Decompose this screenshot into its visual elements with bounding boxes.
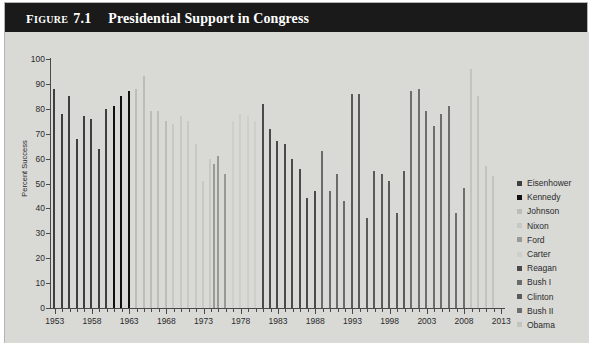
x-axis-tick-mark xyxy=(300,309,301,312)
legend-label: Eisenhower xyxy=(527,178,571,188)
legend-swatch-icon xyxy=(517,280,522,285)
legend-item[interactable]: Nixon xyxy=(517,219,587,233)
x-axis-tick-mark xyxy=(360,309,361,312)
legend-item[interactable]: Bush II xyxy=(517,304,587,318)
x-axis-tick-label: 1973 xyxy=(194,316,213,326)
figure-label: FIGURE xyxy=(26,12,68,26)
x-axis-tick-mark xyxy=(129,309,130,314)
chart-bar xyxy=(448,106,450,308)
x-axis-tick-mark xyxy=(472,309,473,312)
x-axis-tick-mark xyxy=(263,309,264,312)
x-axis-tick-mark xyxy=(166,309,167,314)
chart-bar xyxy=(306,198,308,308)
chart-bar xyxy=(128,91,130,308)
legend-swatch-icon xyxy=(517,322,522,327)
chart-bar xyxy=(61,114,63,308)
legend-swatch-icon xyxy=(517,209,522,214)
chart-bar xyxy=(165,121,167,308)
chart-bar xyxy=(336,174,338,308)
chart-bar xyxy=(83,116,85,308)
legend-item[interactable]: Bush I xyxy=(517,275,587,289)
chart-bar xyxy=(396,213,398,308)
legend-swatch-icon xyxy=(517,266,522,271)
y-axis-tick-label: 70 xyxy=(21,129,45,139)
chart-bar xyxy=(90,119,92,308)
x-axis-tick-mark xyxy=(501,309,502,314)
x-axis-tick-mark xyxy=(241,309,242,314)
chart-bar xyxy=(247,116,249,308)
chart-bar xyxy=(373,171,375,308)
x-axis-tick-label: 1958 xyxy=(82,316,101,326)
figure-label-initial: F xyxy=(26,12,34,26)
chart-bar xyxy=(202,181,204,308)
chart-bar xyxy=(224,174,226,308)
x-axis-tick-mark xyxy=(315,309,316,314)
legend-label: Johnson xyxy=(527,206,559,216)
chart-bar xyxy=(463,188,465,308)
chart-bar xyxy=(76,139,78,308)
chart-legend: EisenhowerKennedyJohnsonNixonFordCarterR… xyxy=(517,176,587,332)
chart-body: Percent Success 0102030405060708090100 1… xyxy=(5,32,589,343)
legend-label: Bush I xyxy=(527,277,551,287)
chart-bar xyxy=(388,181,390,308)
x-axis-tick-mark xyxy=(352,309,353,314)
x-axis-tick-mark xyxy=(285,309,286,312)
legend-item[interactable]: Clinton xyxy=(517,290,587,304)
x-axis-tick-mark xyxy=(159,309,160,312)
x-axis-tick-mark xyxy=(211,309,212,312)
chart-bar xyxy=(254,121,256,308)
x-axis-tick-mark xyxy=(457,309,458,312)
legend-item[interactable]: Obama xyxy=(517,318,587,332)
x-axis-tick-mark xyxy=(70,309,71,312)
x-axis-tick-label: 1968 xyxy=(157,316,176,326)
x-axis-tick-mark xyxy=(114,309,115,312)
x-axis-tick-mark xyxy=(293,309,294,312)
chart-bar xyxy=(358,94,360,308)
x-axis-tick-label: 2008 xyxy=(455,316,474,326)
legend-item[interactable]: Ford xyxy=(517,233,587,247)
x-axis-tick-mark xyxy=(494,309,495,312)
figure-title-band: FIGURE7.1Presidential Support in Congres… xyxy=(5,3,587,32)
chart-bar xyxy=(172,124,174,308)
x-axis-tick-mark xyxy=(151,309,152,312)
chart-bar xyxy=(351,94,353,308)
x-axis-tick-mark xyxy=(92,309,93,314)
x-axis-tick-mark xyxy=(189,309,190,312)
chart-bar xyxy=(187,121,189,308)
chart-bar xyxy=(262,104,264,308)
chart-bar xyxy=(157,111,159,308)
legend-item[interactable]: Kennedy xyxy=(517,190,587,204)
chart-bar xyxy=(485,166,487,308)
legend-item[interactable]: Eisenhower xyxy=(517,176,587,190)
x-axis-tick-mark xyxy=(144,309,145,312)
chart-bar xyxy=(321,151,323,308)
legend-item[interactable]: Carter xyxy=(517,247,587,261)
chart-bar xyxy=(276,141,278,308)
x-axis-tick-mark xyxy=(412,309,413,312)
legend-item[interactable]: Johnson xyxy=(517,204,587,218)
y-axis-tick-labels: 0102030405060708090100 xyxy=(17,32,45,343)
x-axis-tick-mark xyxy=(204,309,205,314)
chart-bar xyxy=(195,144,197,308)
x-axis-tick-mark xyxy=(464,309,465,314)
chart-bar xyxy=(135,89,137,308)
x-axis-tick-mark xyxy=(486,309,487,312)
x-axis-tick-mark xyxy=(427,309,428,314)
chart-bar xyxy=(492,176,494,308)
x-axis-tick-label: 1978 xyxy=(231,316,250,326)
chart-bar xyxy=(213,164,215,308)
y-axis-tick-label: 50 xyxy=(21,179,45,189)
chart-bar xyxy=(314,191,316,308)
x-axis-tick-mark xyxy=(390,309,391,314)
chart-bar xyxy=(425,111,427,308)
x-axis-tick-mark xyxy=(233,309,234,312)
chart-bar xyxy=(455,213,457,308)
x-axis-tick-mark xyxy=(55,309,56,314)
chart-bar xyxy=(433,126,435,308)
x-axis-tick-label: 1998 xyxy=(380,316,399,326)
chart-bar xyxy=(329,191,331,308)
legend-item[interactable]: Reagan xyxy=(517,261,587,275)
x-axis-tick-mark xyxy=(218,309,219,312)
x-axis-tick-label: 1963 xyxy=(120,316,139,326)
x-axis-tick-mark xyxy=(434,309,435,312)
